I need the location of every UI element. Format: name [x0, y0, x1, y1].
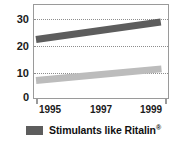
- x-axis-tick-1995: [36, 99, 38, 104]
- y-axis-label-10: 10: [0, 67, 29, 79]
- x-axis-label-1995: 1995: [39, 104, 61, 115]
- chart-legend: Stimulants like Ritalin®: [0, 124, 187, 136]
- y-axis-label-0: 0: [0, 91, 29, 103]
- plot-area: [33, 4, 169, 99]
- legend-swatch-stimulants: [26, 126, 43, 135]
- series-band-secondary: [36, 65, 162, 83]
- y-axis-label-20: 20: [0, 40, 29, 52]
- series-band-stimulants: [36, 19, 162, 43]
- x-axis-label-1997: 1997: [90, 104, 112, 115]
- x-axis-label-1999: 1999: [140, 104, 162, 115]
- chart-figure: 30 20 10 0 1995 1997 1999 Stimulants lik…: [0, 0, 187, 152]
- gridline-20: [34, 46, 168, 47]
- legend-label-text: Stimulants like Ritalin: [49, 124, 156, 136]
- x-axis-tick-1999: [165, 99, 167, 104]
- y-axis-label-30: 30: [0, 13, 29, 25]
- legend-label-stimulants: Stimulants like Ritalin®: [49, 124, 161, 136]
- registered-trademark-icon: ®: [156, 124, 161, 131]
